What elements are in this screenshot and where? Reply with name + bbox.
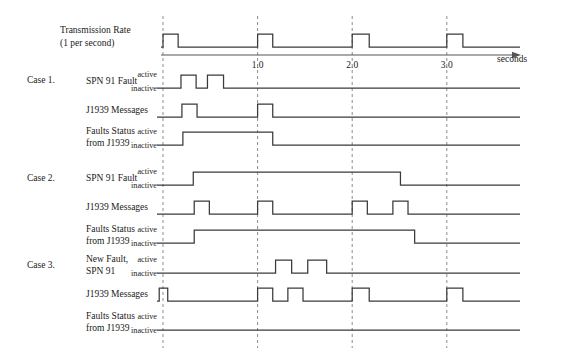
- waveform-case2-row1: [157, 172, 520, 185]
- state-label-inactive-case2-3: inactive: [131, 239, 157, 248]
- state-label-inactive-case1-1: inactive: [131, 84, 157, 93]
- waveforms-group: [157, 34, 520, 330]
- state-label-active-case1-3: active: [137, 127, 157, 136]
- waveform-case2-row3: [157, 230, 520, 243]
- state-label-inactive-case3-1: inactive: [131, 269, 157, 278]
- labels-group: Transmission Rate(1 per second)Case 1.SP…: [27, 25, 157, 335]
- row-label-case3-3-line2: from J1939: [86, 323, 130, 333]
- gridlines-group: [163, 16, 447, 348]
- row-label-case2-3-line2: from J1939: [86, 236, 130, 246]
- row-label-case3-1-line1: New Fault,: [86, 254, 128, 264]
- row-label-case1-3-line1: Faults Status: [86, 126, 135, 136]
- waveform-case3-row1: [157, 260, 520, 273]
- row-label-case1-1-line1: SPN 91 Fault: [86, 76, 138, 86]
- case-label-1: Case 1.: [27, 75, 55, 85]
- timing-diagram: Transmission Rate(1 per second)Case 1.SP…: [0, 0, 561, 355]
- row-label-case1-2-line1: J1939 Messages: [86, 105, 148, 115]
- transmission-rate-label-line1: Transmission Rate: [60, 25, 131, 35]
- case-label-3: Case 3.: [27, 260, 55, 270]
- waveform-case3-row2: [157, 288, 520, 301]
- state-label-active-case3-1: active: [137, 255, 157, 264]
- row-label-case2-1-line1: SPN 91 Fault: [86, 173, 138, 183]
- state-label-active-case1-1: active: [137, 70, 157, 79]
- waveform-case1-row2: [157, 104, 520, 117]
- row-label-case2-2-line1: J1939 Messages: [86, 202, 148, 212]
- state-label-inactive-case2-1: inactive: [131, 181, 157, 190]
- tick-label-3-0: 3.0: [441, 60, 453, 70]
- waveform-transmission-rate: [161, 34, 520, 47]
- transmission-rate-label-line2: (1 per second): [60, 38, 114, 49]
- state-label-inactive-case3-3: inactive: [131, 326, 157, 335]
- tick-label-1-0: 1.0: [252, 60, 264, 70]
- state-label-active-case3-3: active: [137, 312, 157, 321]
- state-label-inactive-case1-3: inactive: [131, 141, 157, 150]
- waveform-case1-row1: [157, 75, 520, 88]
- waveform-case2-row2: [157, 201, 520, 214]
- row-label-case3-2-line1: J1939 Messages: [86, 289, 148, 299]
- row-label-case3-1-line2: SPN 91: [86, 266, 116, 276]
- row-label-case2-3-line1: Faults Status: [86, 224, 135, 234]
- row-label-case3-3-line1: Faults Status: [86, 311, 135, 321]
- case-label-2: Case 2.: [27, 173, 55, 183]
- tick-label-2-0: 2.0: [346, 60, 358, 70]
- time-axis-group: seconds1.02.03.0: [161, 52, 527, 70]
- row-label-case1-3-line2: from J1939: [86, 138, 130, 148]
- state-label-active-case2-3: active: [137, 225, 157, 234]
- waveform-case1-row3: [157, 132, 520, 145]
- state-label-active-case2-1: active: [137, 167, 157, 176]
- time-axis-unit-label: seconds: [497, 54, 527, 64]
